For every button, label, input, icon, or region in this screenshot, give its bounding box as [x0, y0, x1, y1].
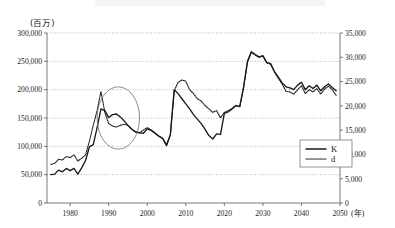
svg-text:100,000: 100,000	[17, 142, 42, 151]
svg-text:2020: 2020	[217, 209, 232, 218]
svg-text:0: 0	[38, 199, 42, 208]
legend-label-d: d	[331, 154, 336, 164]
svg-text:2000: 2000	[140, 209, 155, 218]
svg-text:1990: 1990	[101, 209, 116, 218]
svg-text:2040: 2040	[294, 209, 309, 218]
svg-text:200,000: 200,000	[17, 85, 42, 94]
svg-text:15,000: 15,000	[345, 126, 366, 135]
y-axis-right-ticks: 05,00010,00015,00020,00025,00030,00035,0…	[340, 29, 366, 208]
data-series-layer	[51, 52, 336, 175]
svg-text:250,000: 250,000	[17, 57, 42, 66]
svg-text:30,000: 30,000	[345, 53, 366, 62]
chart-legend[interactable]: Kd	[300, 140, 352, 167]
svg-text:5,000: 5,000	[345, 175, 362, 184]
chart-figure: 050,000100,000150,000200,000250,000300,0…	[0, 0, 395, 228]
svg-text:150,000: 150,000	[17, 114, 42, 123]
svg-text:0: 0	[345, 199, 349, 208]
svg-text:25,000: 25,000	[345, 77, 366, 86]
svg-text:35,000: 35,000	[345, 29, 366, 38]
svg-text:2050: 2050	[332, 209, 347, 218]
y-axis-left-ticks: 050,000100,000150,000200,000250,000300,0…	[17, 29, 47, 208]
x-axis-unit-label: (年)	[351, 208, 365, 218]
svg-text:50,000: 50,000	[21, 170, 42, 179]
series-line-K	[51, 52, 336, 175]
svg-text:300,000: 300,000	[17, 29, 42, 38]
legend-label-K: K	[331, 144, 338, 154]
svg-text:20,000: 20,000	[345, 102, 366, 111]
svg-text:2010: 2010	[178, 209, 193, 218]
svg-text:2030: 2030	[255, 209, 270, 218]
series-line-d	[51, 52, 336, 164]
gridlines	[47, 33, 340, 175]
x-axis-ticks: 19801990200020102020203020402050	[63, 203, 348, 218]
svg-text:1980: 1980	[63, 209, 78, 218]
